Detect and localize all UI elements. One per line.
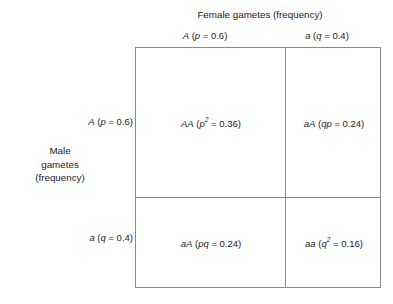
cell-AA-value: 0.36 bbox=[219, 118, 238, 129]
row-header-a-frequency: 0.4 bbox=[117, 232, 130, 243]
male-gametes-title-line1: Male bbox=[12, 144, 108, 158]
paren-close: ) bbox=[238, 118, 241, 129]
cell-aA-bot-genotype: aA bbox=[181, 238, 193, 249]
equals-sign: = bbox=[332, 118, 343, 129]
paren-close: ) bbox=[130, 232, 133, 243]
cell-aa-genotype: aa bbox=[305, 238, 316, 249]
equals-sign: = bbox=[330, 238, 341, 249]
column-header-allele-a: a (q = 0.4) bbox=[305, 30, 349, 42]
paren-close: ) bbox=[360, 238, 363, 249]
paren-close: ) bbox=[224, 30, 227, 41]
cell-aA-bot-value: 0.24 bbox=[220, 238, 239, 249]
equals-sign: = bbox=[209, 238, 220, 249]
cell-aA-top-expression-base: qp bbox=[321, 118, 332, 129]
paren-close: ) bbox=[238, 238, 241, 249]
grid-vertical-divider bbox=[285, 48, 286, 287]
cell-aa-value: 0.16 bbox=[341, 238, 360, 249]
punnett-square-figure: Female gametes (frequency) A (p = 0.6) a… bbox=[0, 0, 393, 304]
paren-close: ) bbox=[130, 116, 133, 127]
equals-sign: = bbox=[106, 232, 117, 243]
male-gametes-title-line2: gametes bbox=[12, 158, 108, 172]
grid-horizontal-divider bbox=[136, 197, 380, 198]
male-gametes-title-line3: (frequency) bbox=[12, 171, 108, 185]
punnett-square-grid: AA (p2 = 0.36) aA (qp = 0.24) aA (pq = 0… bbox=[135, 47, 381, 288]
cell-genotype-aA-bottom-left: aA (pq = 0.24) bbox=[181, 238, 242, 249]
column-header-A-frequency: 0.6 bbox=[211, 30, 224, 41]
female-gametes-title: Female gametes (frequency) bbox=[197, 9, 322, 21]
equals-sign: = bbox=[106, 116, 117, 127]
row-header-allele-a: a (q = 0.4) bbox=[53, 232, 133, 244]
cell-aA-bot-expression-base: pq bbox=[198, 238, 209, 249]
equals-sign: = bbox=[208, 118, 219, 129]
cell-aA-top-genotype: aA bbox=[304, 118, 316, 129]
row-header-A-frequency: 0.6 bbox=[117, 116, 130, 127]
cell-genotype-aA-top-right: aA (qp = 0.24) bbox=[304, 118, 365, 129]
cell-genotype-AA: AA (p2 = 0.36) bbox=[181, 118, 241, 129]
row-header-allele-A: A (p = 0.6) bbox=[53, 116, 133, 128]
equals-sign: = bbox=[322, 30, 333, 41]
column-header-allele-A: A (p = 0.6) bbox=[183, 30, 228, 42]
column-header-a-frequency: 0.4 bbox=[332, 30, 345, 41]
cell-genotype-aa: aa (q2 = 0.16) bbox=[305, 238, 363, 249]
cell-AA-genotype: AA bbox=[181, 118, 194, 129]
cell-aA-top-value: 0.24 bbox=[343, 118, 362, 129]
paren-close: ) bbox=[361, 118, 364, 129]
male-gametes-title: Male gametes (frequency) bbox=[12, 144, 108, 185]
paren-close: ) bbox=[346, 30, 349, 41]
equals-sign: = bbox=[200, 30, 211, 41]
